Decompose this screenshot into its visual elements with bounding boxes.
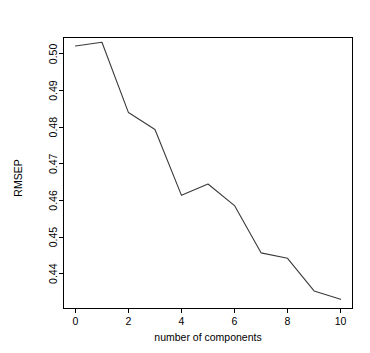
x-tick-label: 0 (73, 315, 79, 327)
x-axis-title: number of components (154, 331, 261, 343)
y-tick-label: 0.46 (47, 190, 59, 211)
cross-validation-plot: Cross-validation plot 0.440.450.460.470.… (0, 0, 370, 353)
y-tick-label: 0.50 (47, 44, 59, 65)
y-tick-label: 0.44 (47, 263, 59, 284)
x-tick-label: 8 (285, 315, 291, 327)
x-tick-label: 10 (335, 315, 347, 327)
y-axis-title: RMSEP (12, 159, 24, 196)
y-tick-label: 0.45 (47, 227, 59, 248)
x-tick-label: 2 (126, 315, 132, 327)
x-tick-label: 4 (179, 315, 185, 327)
y-tick-label: 0.47 (47, 153, 59, 174)
y-tick-label: 0.48 (47, 117, 59, 138)
x-tick-label: 6 (232, 315, 238, 327)
plot-canvas: 0.440.450.460.470.480.490.50 0246810 num… (0, 0, 370, 353)
y-tick-label: 0.49 (47, 80, 59, 101)
